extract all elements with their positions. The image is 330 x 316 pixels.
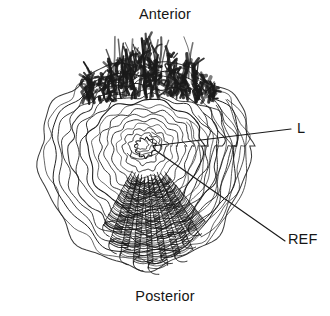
figure-container: Anterior Posterior L REF (0, 0, 330, 316)
illustration-canvas (0, 0, 330, 316)
label-ref: REF (288, 232, 317, 247)
radiating-coiled-folds (103, 171, 205, 274)
label-anterior: Anterior (0, 7, 330, 22)
label-l: L (297, 121, 305, 136)
label-posterior: Posterior (0, 289, 330, 304)
